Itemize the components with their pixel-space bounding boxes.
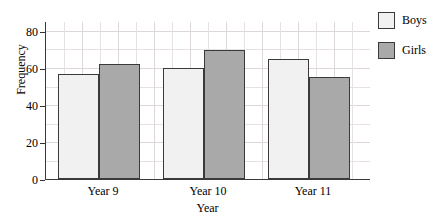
plot-area xyxy=(45,22,370,180)
y-tick-label-0: 0 xyxy=(14,174,38,186)
chart-legend: Boys Girls xyxy=(378,10,440,70)
bar-boys-year-11 xyxy=(268,59,309,179)
y-tick-label-40: 40 xyxy=(14,100,38,112)
x-tick-label-year-10: Year 10 xyxy=(158,184,258,199)
bar-boys-year-10 xyxy=(163,68,204,179)
legend-swatch-girls-icon xyxy=(378,42,395,59)
y-axis-tick-labels: 0 20 40 60 80 xyxy=(10,0,38,223)
legend-item-boys: Boys xyxy=(378,10,440,31)
x-tick-label-year-9: Year 9 xyxy=(53,184,153,199)
y-tick-label-80: 80 xyxy=(14,26,38,38)
bar-girls-year-10 xyxy=(204,50,245,179)
x-tick-label-year-11: Year 11 xyxy=(263,184,363,199)
y-tick-label-20: 20 xyxy=(14,137,38,149)
bar-girls-year-9 xyxy=(99,64,140,179)
bar-chart: Frequency 0 20 40 60 80 xyxy=(0,0,443,223)
y-tick-label-60: 60 xyxy=(14,63,38,75)
legend-item-girls: Girls xyxy=(378,40,440,61)
bar-girls-year-11 xyxy=(309,77,350,179)
legend-label-girls: Girls xyxy=(402,43,426,58)
x-axis-title: Year xyxy=(45,201,370,216)
bar-boys-year-9 xyxy=(58,74,99,179)
legend-swatch-boys-icon xyxy=(378,12,395,29)
y-tick-mark-0 xyxy=(40,180,45,181)
legend-label-boys: Boys xyxy=(402,13,427,28)
